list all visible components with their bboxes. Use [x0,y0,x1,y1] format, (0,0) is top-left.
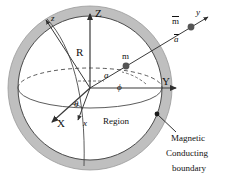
boundary-callout-line2: Conducting [166,149,208,158]
outer-dipole-marker [188,24,195,31]
axis-Z-label: Z [95,8,102,19]
boundary-callout-line1: Magnetic [171,134,205,143]
outer-dipole-label: m [172,17,179,26]
axis-x-small-label: x [83,119,87,128]
figure-canvas: Z z Y X x y R m a m a ϕ θ Region Magneti… [0,0,227,180]
axis-y-small-label: y [196,8,200,17]
axis-X-label: X [57,118,65,129]
radius-label: R [76,47,83,58]
region-label: Region [103,117,129,126]
axis-Y-label: Y [162,76,170,87]
distance-a-label: a [104,71,109,80]
boundary-callout-line3: boundary [172,164,206,173]
angle-theta-label: θ [74,100,78,109]
inner-dipole-label: m [122,52,129,61]
vector-a-overbar-text: a [174,35,179,44]
vector-a-label: a [174,35,179,44]
inner-dipole-marker [123,63,130,70]
outer-dipole-overbar-text: m [172,17,179,26]
axis-z-small-label: z [51,14,55,23]
angle-phi-label: ϕ [117,83,122,92]
